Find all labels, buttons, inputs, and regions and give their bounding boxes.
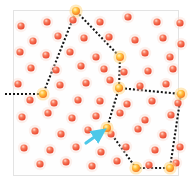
data-point-marker xyxy=(176,19,183,26)
data-point-marker xyxy=(100,65,107,72)
data-point-marker xyxy=(42,51,49,58)
data-point-marker xyxy=(26,96,33,103)
data-point-marker xyxy=(44,109,51,116)
path-vertex-marker xyxy=(177,90,185,98)
scatter-figure-container xyxy=(0,0,193,189)
path-vertex-marker xyxy=(166,164,174,172)
data-point-marker xyxy=(105,33,112,40)
data-point-marker xyxy=(84,126,91,133)
data-point-marker xyxy=(148,97,155,104)
data-point-marker xyxy=(120,68,127,75)
data-point-marker xyxy=(74,96,81,103)
path-vertex-marker xyxy=(115,84,123,92)
data-point-marker xyxy=(16,48,23,55)
data-point-marker xyxy=(141,49,148,56)
path-vertex-marker xyxy=(103,124,111,132)
annotation-layer xyxy=(86,133,100,143)
data-point-marker xyxy=(14,80,21,87)
data-point-marker xyxy=(113,157,120,164)
data-point-marker xyxy=(92,112,99,119)
data-point-marker xyxy=(72,143,79,150)
data-point-marker xyxy=(166,53,173,60)
data-point-marker xyxy=(31,127,38,134)
data-point-marker xyxy=(92,53,99,60)
data-point-marker xyxy=(20,144,27,151)
data-point-marker xyxy=(27,64,34,71)
data-point-marker xyxy=(159,131,166,138)
data-point-marker xyxy=(134,125,141,132)
data-point-marker xyxy=(122,143,129,150)
data-point-marker xyxy=(46,146,53,153)
data-point-marker xyxy=(96,97,103,104)
data-point-marker xyxy=(36,160,43,167)
path-vertex-marker xyxy=(72,7,80,15)
path-vertex-marker xyxy=(132,164,140,172)
data-point-marker xyxy=(162,80,169,87)
data-point-marker xyxy=(80,34,87,41)
data-point-marker xyxy=(56,81,63,88)
data-point-marker xyxy=(145,161,152,168)
data-point-marker xyxy=(17,22,24,29)
data-point-marker xyxy=(176,143,183,150)
data-point-marker xyxy=(54,32,61,39)
data-point-marker xyxy=(159,34,166,41)
data-point-marker xyxy=(50,99,57,106)
data-point-marker xyxy=(77,62,84,69)
data-point-marker xyxy=(52,66,59,73)
data-point-marker xyxy=(96,18,103,25)
data-point-marker xyxy=(141,116,148,123)
data-point-marker xyxy=(174,99,181,106)
data-point-marker xyxy=(57,130,64,137)
data-point-marker xyxy=(167,111,174,118)
data-point-marker xyxy=(177,40,184,47)
data-point-marker xyxy=(153,18,160,25)
data-point-marker xyxy=(43,18,50,25)
data-point-marker xyxy=(131,36,138,43)
data-point-marker xyxy=(169,65,176,72)
data-point-marker xyxy=(124,13,131,20)
data-point-marker xyxy=(29,37,36,44)
path-vertex-marker xyxy=(39,90,47,98)
data-point-marker xyxy=(69,16,76,23)
data-point-marker xyxy=(18,113,25,120)
dotted-boundary-path xyxy=(5,11,181,168)
data-point-marker xyxy=(62,158,69,165)
data-point-marker xyxy=(82,79,89,86)
path-vertex-marker xyxy=(116,53,124,61)
data-point-marker xyxy=(136,82,143,89)
data-point-marker xyxy=(123,100,130,107)
data-point-marker xyxy=(172,159,179,166)
data-point-marker xyxy=(116,109,123,116)
data-point-marker xyxy=(106,76,113,83)
data-point-marker xyxy=(66,48,73,55)
data-point-marker xyxy=(68,114,75,121)
data-point-marker xyxy=(151,146,158,153)
scatter-plot-canvas xyxy=(0,0,193,189)
dotted-path-layer xyxy=(5,11,181,168)
path-vertex-layer xyxy=(36,4,187,174)
data-point-marker xyxy=(88,162,95,169)
cyan-arrow xyxy=(86,133,100,143)
data-point-marker xyxy=(144,67,151,74)
data-point-marker xyxy=(97,148,104,155)
